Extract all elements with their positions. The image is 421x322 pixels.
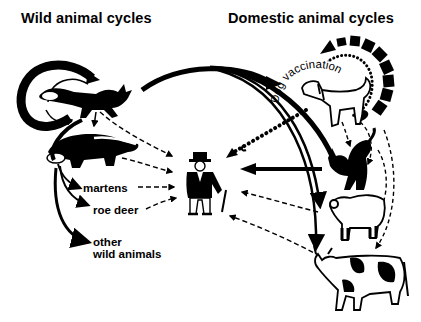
svg-text:Dog vaccination: Dog vaccination xyxy=(268,58,344,104)
dog-vaccination-label: Dog vaccination xyxy=(0,0,421,322)
